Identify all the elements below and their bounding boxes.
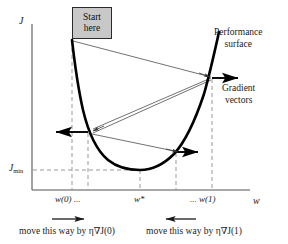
j-min-subscript: min	[13, 167, 23, 174]
y-axis-label: J	[19, 16, 23, 27]
caption-left: move this way by η∇J(0)	[19, 226, 115, 236]
x-tick-label-w1: ... w(1)	[190, 195, 216, 205]
gradient-vectors-line1: Gradient	[222, 83, 255, 95]
j-min-label: Jmin	[9, 163, 23, 173]
x-tick-label-w0: w(0) ...	[55, 195, 81, 205]
performance-surface-curve	[72, 32, 219, 170]
leader-arrowheads	[93, 73, 210, 152]
performance-surface-line2: surface	[214, 39, 263, 51]
caption-right: move this way by η∇J(1)	[146, 226, 242, 236]
gradient-vectors-annotation: Gradient vectors	[222, 83, 255, 107]
start-here-callout: Start here	[72, 7, 112, 39]
gradient-descent-figure: Start here J w Jmin w(0) ... w* ... w(1)…	[0, 0, 288, 244]
x-axis-label: w	[253, 196, 260, 207]
start-here-line2: here	[84, 23, 100, 34]
gradient-vectors-line2: vectors	[222, 95, 255, 107]
leader-lines	[73, 41, 211, 152]
performance-surface-annotation: Performance surface	[214, 27, 263, 51]
start-here-line1: Start	[83, 12, 101, 23]
performance-surface-line1: Performance	[214, 27, 263, 39]
x-tick-label-wstar: w*	[134, 195, 145, 205]
